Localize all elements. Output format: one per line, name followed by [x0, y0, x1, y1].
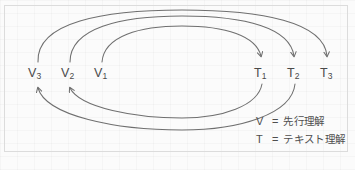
node-label-v1: V1: [94, 66, 107, 81]
node-base-t2: T: [287, 66, 295, 80]
node-sub-v1: 1: [103, 71, 108, 81]
node-label-t3: T3: [320, 66, 333, 81]
legend: V = 先行理解 T = テキスト理解: [256, 112, 345, 148]
arc-v3-to-t3: [38, 10, 327, 62]
node-label-t2: T2: [287, 66, 300, 81]
legend-symbol-t: T: [256, 130, 267, 148]
node-label-v2: V2: [61, 66, 74, 81]
node-sub-v2: 2: [70, 71, 75, 81]
node-base-v2: V: [61, 66, 70, 80]
node-base-v1: V: [94, 66, 103, 80]
legend-row-t: T = テキスト理解: [256, 130, 345, 148]
node-label-t1: T1: [254, 66, 267, 81]
diagram-figure: V3 V2 V1 T1 T2 T3 V = 先行理解 T = テキスト理解: [0, 0, 355, 170]
node-sub-t1: 1: [262, 71, 267, 81]
legend-equals-v: =: [272, 112, 278, 130]
node-sub-t2: 2: [295, 71, 300, 81]
node-sub-v3: 3: [37, 71, 42, 81]
arc-t1-to-v2: [70, 84, 262, 118]
legend-row-v: V = 先行理解: [256, 112, 345, 130]
node-base-t1: T: [254, 66, 262, 80]
node-sub-t3: 3: [328, 71, 333, 81]
node-base-v3: V: [28, 66, 37, 80]
legend-equals-t: =: [272, 130, 278, 148]
legend-symbol-v: V: [256, 112, 267, 130]
arc-v1-to-t1: [102, 26, 261, 62]
legend-text-v: 先行理解: [283, 112, 324, 130]
legend-text-t: テキスト理解: [283, 130, 345, 148]
node-label-v3: V3: [28, 66, 41, 81]
node-base-t3: T: [320, 66, 328, 80]
